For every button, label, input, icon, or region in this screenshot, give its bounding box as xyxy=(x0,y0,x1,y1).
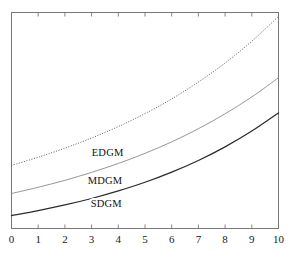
x-tick-label: 2 xyxy=(62,233,68,245)
x-tick-label: 0 xyxy=(9,233,15,245)
series-label-mdgm: MDGM xyxy=(88,175,123,186)
curve-mdgm xyxy=(12,78,279,194)
series-label-sdgm: SDGM xyxy=(91,198,123,209)
chart-figure: EDGMEDGMMDGMMDGMSDGMSDGM 012345678910 xyxy=(0,0,295,253)
series-labels: EDGMEDGMMDGMMDGMSDGMSDGM xyxy=(88,147,124,209)
x-tick-label: 5 xyxy=(142,233,148,245)
series-label-edgm: EDGM xyxy=(92,147,124,158)
x-axis-tick-labels: 012345678910 xyxy=(9,233,285,245)
curve-sdgm xyxy=(12,113,279,216)
data-curves xyxy=(12,16,279,215)
plot-border xyxy=(12,13,279,229)
plot-frame xyxy=(12,13,279,229)
line-chart: EDGMEDGMMDGMMDGMSDGMSDGM 012345678910 xyxy=(0,0,295,253)
x-tick-label: 10 xyxy=(273,233,285,245)
x-tick-label: 8 xyxy=(222,233,228,245)
curve-edgm xyxy=(12,16,279,165)
x-tick-label: 6 xyxy=(169,233,175,245)
axis-ticks xyxy=(12,13,279,229)
x-tick-label: 7 xyxy=(196,233,202,245)
x-tick-label: 1 xyxy=(35,233,41,245)
x-tick-label: 3 xyxy=(89,233,95,245)
x-tick-label: 4 xyxy=(116,233,122,245)
x-tick-label: 9 xyxy=(249,233,255,245)
